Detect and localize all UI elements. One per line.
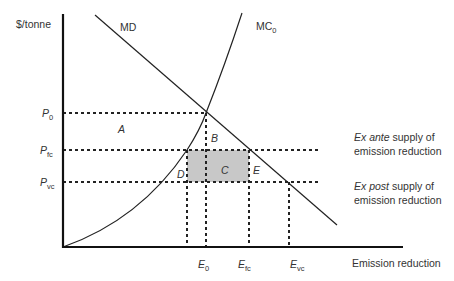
area-c-label: C (221, 164, 229, 176)
e0-label: E0 (198, 258, 209, 275)
ex-post-line2: emission reduction (354, 194, 442, 206)
evc-main: E (290, 258, 297, 270)
ex-ante-rest: supply of (390, 131, 435, 143)
pvc-sub: vc (47, 182, 55, 191)
area-d-label: D (177, 168, 185, 180)
ex-ante-line2: emission reduction (354, 145, 442, 157)
ex-ante-italic: Ex ante (354, 131, 390, 143)
ex-post-rest: supply of (389, 180, 434, 192)
p0-label: P0 (42, 107, 53, 124)
pfc-main: P (40, 144, 47, 156)
mc0-label-sub: 0 (272, 26, 276, 35)
efc-sub: fc (245, 264, 251, 273)
p0-main: P (42, 107, 49, 119)
efc-main: E (238, 258, 245, 270)
x-axis-label: Emission reduction (352, 257, 441, 269)
pfc-label: Pfc (40, 144, 53, 161)
pvc-main: P (40, 176, 47, 188)
p0-sub: 0 (49, 113, 53, 122)
area-e-label: E (253, 164, 260, 176)
ex-post-annotation: Ex post supply of emission reduction (354, 179, 442, 207)
md-curve (95, 15, 337, 225)
efc-label: Efc (238, 258, 251, 275)
shaded-area-c (187, 150, 249, 182)
evc-label: Evc (290, 258, 305, 275)
md-label: MD (120, 21, 136, 33)
ex-post-italic: Ex post (354, 180, 389, 192)
pfc-sub: fc (47, 150, 53, 159)
mc0-curve (63, 13, 242, 247)
e0-sub: 0 (205, 264, 209, 273)
mc0-label-main: MC (256, 20, 272, 32)
ex-ante-annotation: Ex ante supply of emission reduction (354, 130, 442, 158)
pvc-label: Pvc (40, 176, 55, 193)
area-b-label: B (211, 132, 218, 144)
evc-sub: vc (297, 264, 305, 273)
y-axis-label: $/tonne (16, 18, 51, 30)
mc0-label: MC0 (256, 20, 277, 37)
area-a-label: A (118, 123, 125, 135)
e0-main: E (198, 258, 205, 270)
